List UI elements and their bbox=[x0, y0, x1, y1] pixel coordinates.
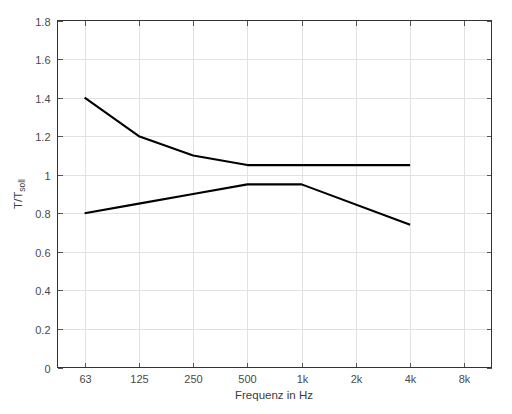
x-axis-title: Frequenz in Hz bbox=[235, 389, 313, 401]
tick-label-y: 1.8 bbox=[35, 16, 50, 28]
tick-label-x: 1k bbox=[297, 373, 309, 385]
y-axis-title-main: T/T bbox=[12, 192, 24, 209]
tick-label-x: 500 bbox=[238, 373, 256, 385]
tick-label-y: 1 bbox=[44, 170, 50, 182]
plot-area-background bbox=[58, 21, 492, 368]
tick-label-y: 0 bbox=[44, 363, 50, 375]
tick-label-y: 0.4 bbox=[35, 285, 50, 297]
tick-label-x: 250 bbox=[184, 373, 202, 385]
tick-label-y: 0.2 bbox=[35, 324, 50, 336]
tick-label-y: 0.8 bbox=[35, 208, 50, 220]
tick-label-y: 1.2 bbox=[35, 131, 50, 143]
y-axis-title-subscript: soll bbox=[17, 179, 27, 192]
tick-label-x: 63 bbox=[79, 373, 91, 385]
tolerance-band-chart: 00.20.40.60.811.21.41.61.8 631252505001k… bbox=[0, 0, 512, 414]
tick-label-x: 4k bbox=[405, 373, 417, 385]
tick-label-x: 125 bbox=[130, 373, 148, 385]
tick-label-y: 1.4 bbox=[35, 93, 50, 105]
chart-figure: 00.20.40.60.811.21.41.61.8 631252505001k… bbox=[0, 0, 512, 414]
tick-label-y: 0.6 bbox=[35, 247, 50, 259]
tick-label-y: 1.6 bbox=[35, 54, 50, 66]
tick-label-x: 2k bbox=[351, 373, 363, 385]
tick-label-x: 8k bbox=[459, 373, 471, 385]
